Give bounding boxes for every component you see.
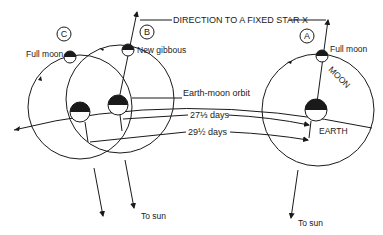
synodic-leader-left <box>90 132 186 142</box>
earth-a <box>305 99 327 121</box>
moon-c <box>64 51 76 63</box>
sun-arrow-c <box>94 168 103 216</box>
moon-label-a: Full moon <box>330 44 368 54</box>
tick-b <box>120 115 122 131</box>
sidereal-leader-right <box>228 115 309 125</box>
synodic-label: 29½ days <box>188 127 228 137</box>
tick-c <box>85 122 88 142</box>
tick-a-1 <box>309 121 311 138</box>
svg-text:A: A <box>304 31 310 41</box>
moon-label-c: Full moon <box>26 49 64 59</box>
synodic-leader-right <box>230 132 308 140</box>
moon-label-b: New gibbous <box>137 45 186 55</box>
sidereal-label: 27⅓ days <box>190 110 230 120</box>
earth-b <box>108 95 128 115</box>
to-sun-label-right: To sun <box>298 218 323 228</box>
moon-b <box>122 44 134 56</box>
sun-arrow-b <box>125 160 134 208</box>
position-label-a: A <box>300 29 314 43</box>
sidereal-leader-left <box>123 115 188 119</box>
sun-arrow-a <box>291 170 298 218</box>
earth-c <box>70 102 90 122</box>
position-label-b: B <box>140 25 154 39</box>
svg-text:B: B <box>144 27 150 37</box>
earth-label: EARTH <box>319 126 348 136</box>
lunar-month-diagram: DIRECTION TO A FIXED STAR X C B A Full m… <box>0 0 383 235</box>
fixed-star-label: DIRECTION TO A FIXED STAR X <box>173 15 308 25</box>
to-sun-label-left: To sun <box>141 211 166 221</box>
position-label-c: C <box>57 27 71 41</box>
star-direction-line-a <box>316 20 328 110</box>
orbit-direction-arrow-c <box>38 76 42 81</box>
moon-orbit-label: MOON <box>327 64 353 90</box>
moon-a <box>316 50 328 62</box>
star-direction-line-b <box>118 12 137 104</box>
orbit-label: Earth-moon orbit <box>183 88 251 98</box>
svg-text:C: C <box>61 29 68 39</box>
